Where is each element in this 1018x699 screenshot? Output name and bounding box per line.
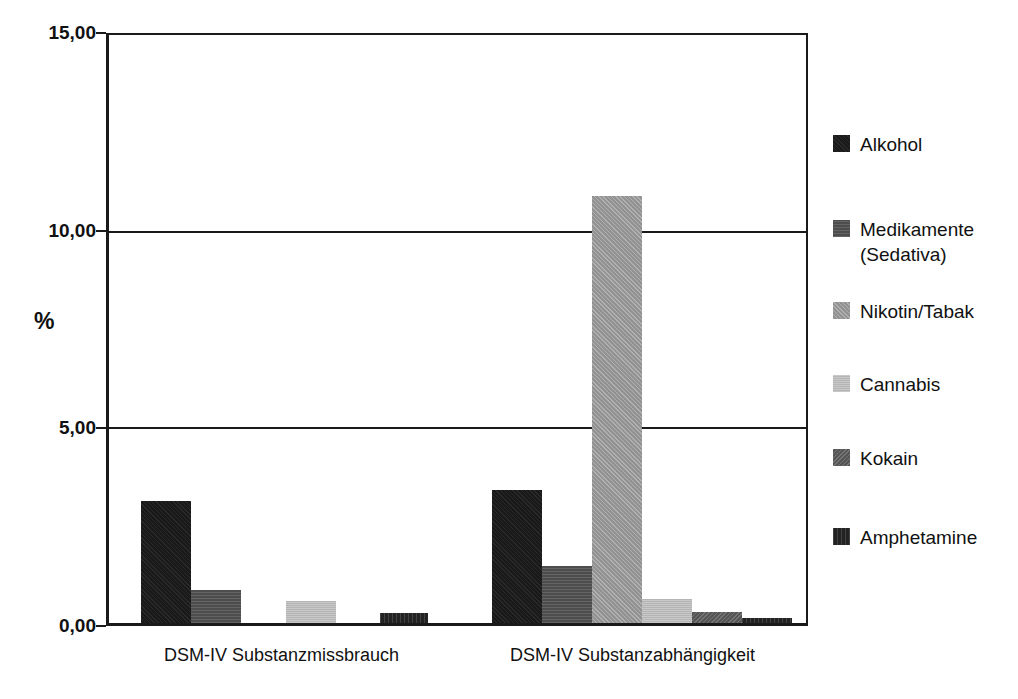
gridline-5 (109, 427, 806, 429)
legend-item-amphetamine: Amphetamine (833, 525, 977, 550)
legend-swatch-icon-medikamente (833, 220, 850, 237)
legend-label-alkohol: Alkohol (860, 132, 922, 157)
legend-swatch-icon-amphetamine (833, 528, 850, 545)
y-tick-mark-5 (96, 427, 106, 429)
y-tick-label-0: 0,00 (12, 615, 96, 637)
bar-group1-cannabis (286, 601, 336, 623)
y-tick-label-10: 10,00 (12, 220, 96, 242)
y-tick-mark-0 (96, 625, 106, 627)
y-tick-mark-15 (96, 32, 106, 34)
bar-group2-alkohol (492, 490, 542, 623)
y-tick-mark-10 (96, 230, 106, 232)
bar-group2-medikamente (542, 566, 592, 623)
gridline-10 (109, 231, 806, 233)
bar-chart: % 15,00 10,00 5,00 0,00 DSM-IV Substanzm… (0, 0, 1018, 699)
x-category-label-2: DSM-IV Substanzabhängigkeit (457, 645, 808, 666)
x-category-label-1: DSM-IV Substanzmissbrauch (106, 645, 457, 666)
bar-group2-kokain (692, 612, 742, 623)
legend-item-cannabis: Cannabis (833, 372, 940, 397)
bar-group1-alkohol (141, 501, 191, 623)
bar-group2-nikotin (592, 196, 642, 623)
bar-group2-cannabis (642, 599, 692, 623)
bar-group2-amphetamine (742, 618, 792, 623)
bar-group1-amphetamine (380, 613, 428, 623)
legend-swatch-icon-nikotin-tabak (833, 302, 850, 319)
bar-group1-medikamente (191, 590, 241, 623)
legend-item-kokain: Kokain (833, 446, 918, 471)
legend-label-nikotin-tabak: Nikotin/Tabak (860, 299, 974, 324)
legend-item-medikamente: Medikamente (Sedativa) (833, 217, 974, 267)
legend-item-nikotin-tabak: Nikotin/Tabak (833, 299, 974, 324)
y-axis-ticks: 15,00 10,00 5,00 0,00 (0, 0, 96, 699)
plot-area (106, 33, 808, 626)
legend-label-kokain: Kokain (860, 446, 918, 471)
legend-swatch-icon-kokain (833, 449, 850, 466)
legend-label-medikamente: Medikamente (Sedativa) (860, 217, 974, 267)
legend-item-alkohol: Alkohol (833, 132, 922, 157)
legend-swatch-icon-cannabis (833, 375, 850, 392)
legend-swatch-icon-alkohol (833, 135, 850, 152)
y-tick-label-15: 15,00 (12, 22, 96, 44)
legend-label-cannabis: Cannabis (860, 372, 940, 397)
legend-label-amphetamine: Amphetamine (860, 525, 977, 550)
y-tick-label-5: 5,00 (12, 417, 96, 439)
